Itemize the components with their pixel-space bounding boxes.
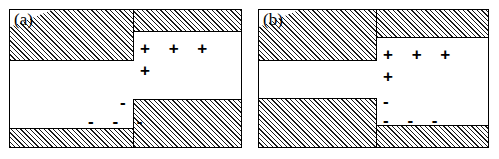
panel-a-bottom-left-block bbox=[9, 128, 134, 148]
panel-a-top-right-block bbox=[133, 9, 242, 32]
panel-b-plus-row: + + + bbox=[383, 46, 457, 63]
panel-a-plus-single: + bbox=[140, 62, 150, 79]
panel-b-minus-single: - bbox=[383, 93, 389, 110]
panel-b-plus-single: + bbox=[383, 68, 393, 85]
panel-a-minus-row: - - - bbox=[88, 113, 149, 130]
panel-b-minus-row: - - - bbox=[383, 112, 444, 129]
figure-canvas: (a) + + + + - - - - (b) + + + + - - - - bbox=[0, 0, 499, 159]
panel-b-top-right-block bbox=[376, 9, 489, 38]
panel-a-plus-row: + + + bbox=[140, 40, 214, 57]
panel-b: (b) + + + + - - - - bbox=[258, 9, 489, 148]
panel-a-minus-single: - bbox=[120, 94, 126, 111]
panel-b-bottom-left-block bbox=[258, 98, 377, 148]
panel-a: (a) + + + + - - - - bbox=[9, 9, 242, 148]
panel-a-label: (a) bbox=[14, 11, 33, 28]
panel-b-label: (b) bbox=[263, 11, 283, 28]
